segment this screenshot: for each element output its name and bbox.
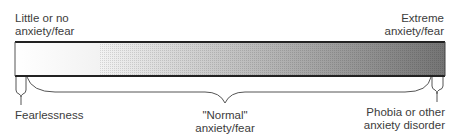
label-line: "Normal": [175, 109, 275, 122]
phobia-brace: [432, 77, 443, 102]
label-normal-anxiety: "Normal" anxiety/fear: [175, 109, 275, 135]
gradient-bar: [15, 42, 445, 76]
label-fearlessness: Fearlessness: [15, 109, 83, 122]
label-line: Little or no: [15, 12, 74, 25]
label-line: Extreme: [385, 12, 444, 25]
normal-brace: [27, 77, 431, 103]
label-line: Phobia or other: [364, 106, 445, 119]
label-little-anxiety: Little or no anxiety/fear: [15, 12, 74, 38]
label-line: anxiety/fear: [175, 122, 275, 135]
label-extreme-anxiety: Extreme anxiety/fear: [385, 12, 444, 38]
label-line: anxiety/fear: [385, 25, 444, 38]
fearlessness-brace: [16, 77, 26, 105]
label-phobia: Phobia or other anxiety disorder: [364, 106, 445, 132]
label-line: anxiety disorder: [364, 119, 445, 132]
label-line: anxiety/fear: [15, 25, 74, 38]
